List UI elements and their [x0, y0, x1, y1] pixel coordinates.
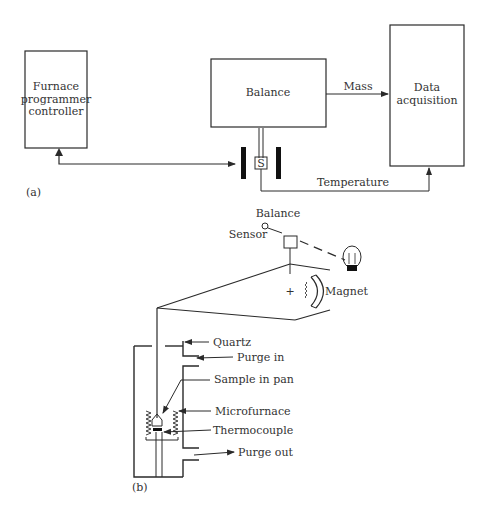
light-bulb-icon [343, 246, 361, 271]
magnet-label: Magnet [325, 285, 368, 298]
coil-icon [305, 282, 307, 298]
coil-left-icon [146, 411, 151, 435]
data-acquisition-box: Data acquisition [390, 25, 464, 166]
panel-a-label: (a) [26, 186, 41, 199]
callout-quartz: Quartz [185, 336, 251, 349]
furnace-plate-right [276, 147, 281, 179]
quartz-label: Quartz [213, 336, 251, 349]
furnace-programmer-box: Furnace programmer controller [21, 51, 92, 148]
furnace-label-line3: controller [29, 105, 85, 118]
arrow-up-icon [55, 148, 63, 156]
plus-sign: + [285, 285, 294, 298]
sensor-label: Sensor [229, 228, 268, 241]
callout-purge-in: Purge in [197, 351, 284, 364]
mass-connector: Mass [326, 80, 388, 94]
microfurnace-label: Microfurnace [215, 405, 291, 418]
balance-label: Balance [246, 86, 290, 99]
data-acquisition-line2: acquisition [396, 94, 457, 107]
furnace-plate-left [241, 147, 246, 179]
sample-in-pan-label: Sample in pan [214, 373, 294, 386]
sensor-box [284, 236, 297, 248]
panel-b-label: (b) [132, 481, 148, 494]
magnet-icon [305, 275, 324, 308]
thermocouple-label: Thermocouple [213, 424, 293, 437]
furnace-control-connector [55, 148, 235, 164]
quartz-tube [134, 341, 199, 477]
temperature-connector: Temperature [261, 168, 429, 191]
sample-box: S [255, 157, 267, 170]
data-acquisition-line1: Data [414, 81, 441, 94]
balance-box: Balance [211, 59, 326, 127]
light-beam [300, 241, 345, 260]
sample-label: S [257, 157, 265, 170]
panel-b: Balance Sensor [132, 207, 368, 494]
balance-sensor-title: Balance [256, 207, 300, 220]
panel-a: Furnace programmer controller Balance S [21, 25, 464, 199]
callout-microfurnace: Microfurnace [179, 405, 291, 418]
furnace-label-line1: Furnace [33, 80, 79, 93]
temperature-label: Temperature [317, 176, 389, 189]
purge-out-label: Purge out [238, 446, 293, 459]
purge-in-label: Purge in [237, 351, 284, 364]
callout-purge-out: Purge out [194, 446, 293, 459]
tga-schematic-diagram: Furnace programmer controller Balance S [0, 0, 490, 509]
mass-label: Mass [343, 80, 372, 93]
